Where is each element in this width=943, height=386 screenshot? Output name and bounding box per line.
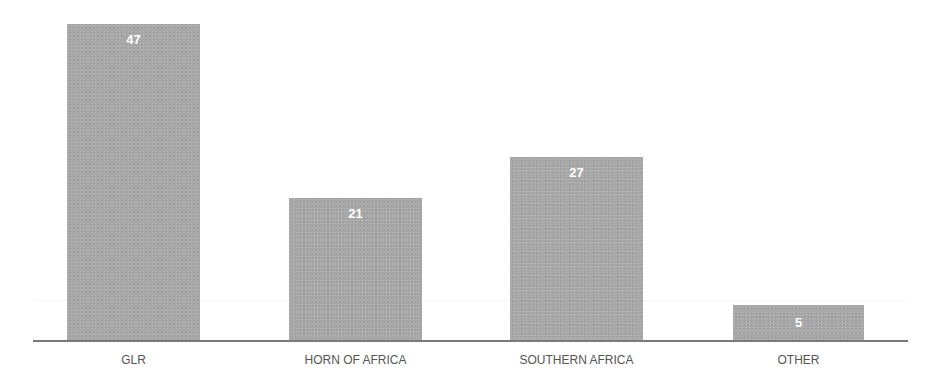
bar-value-label: 5 [733,315,864,330]
bar-southern-africa: 27 [510,157,643,341]
x-tick-label: HORN OF AFRICA [269,353,442,367]
bar-other: 5 [733,305,864,341]
bar-horn-of-africa: 21 [289,198,422,341]
x-tick-label: OTHER [733,353,864,367]
x-tick-label: SOUTHERN AFRICA [486,353,667,367]
bar-chart: 47 21 27 5 GLR HORN OF AFRICA SOUTHERN A… [0,0,943,386]
bar-value-label: 21 [289,206,422,221]
bar-glr: 47 [67,24,200,341]
bar-value-label: 27 [510,165,643,180]
x-tick-label: GLR [67,353,200,367]
bar-value-label: 47 [67,32,200,47]
x-axis-line [33,340,908,342]
